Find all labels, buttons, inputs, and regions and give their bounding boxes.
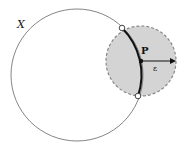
label-epsilon: ε <box>153 64 157 73</box>
neighborhood-diagram: X P ε <box>0 0 184 149</box>
point-p <box>139 59 143 63</box>
open-endpoint-top <box>119 25 125 31</box>
label-p: P <box>141 45 149 56</box>
label-x: X <box>16 18 26 31</box>
open-endpoint-bottom <box>135 93 141 99</box>
